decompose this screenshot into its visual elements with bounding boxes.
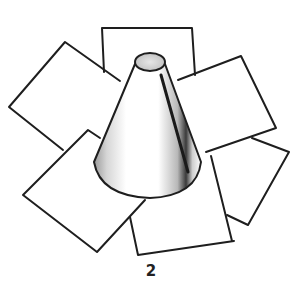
cone-top — [135, 53, 165, 71]
cone-on-squares-drawing — [0, 0, 307, 291]
bottom-square — [130, 217, 234, 255]
lower-right-square-edge — [211, 156, 232, 241]
figure-label: 2 — [136, 262, 166, 280]
illustration — [0, 0, 307, 291]
lower-right-square — [227, 138, 289, 225]
cone-body — [94, 64, 201, 198]
